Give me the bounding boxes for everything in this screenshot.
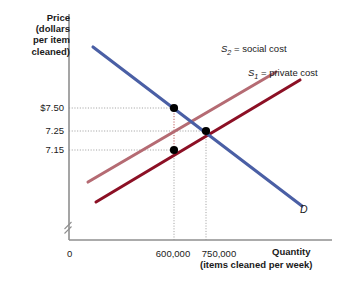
legend-label-s1: S1 = private cost xyxy=(248,67,318,81)
legend-subscript-s1: 1 xyxy=(254,72,258,81)
guide-lines xyxy=(69,108,206,240)
y-tick-label-715: 7.15 xyxy=(16,144,64,155)
legend-text-s1: = private cost xyxy=(261,67,318,78)
y-axis-title: Price (dollars per item cleaned) xyxy=(2,12,70,57)
x-tick-label-750000: 750,000 xyxy=(196,248,242,259)
legend-text-s2: = social cost xyxy=(234,43,287,54)
y-tick-label-725: 7.25 xyxy=(16,125,64,136)
y-axis-title-line-3: cleaned) xyxy=(2,46,70,57)
x-tick-label-600000: 600,000 xyxy=(150,248,196,259)
x-axis-subtitle: (items cleaned per week) xyxy=(200,259,312,270)
externality-supply-demand-chart: Price (dollars per item cleaned) $7.50 7… xyxy=(0,0,345,282)
point-social-optimum xyxy=(170,104,178,112)
y-axis-title-line-1: (dollars xyxy=(2,23,70,34)
origin-label: 0 xyxy=(67,248,72,259)
y-axis-title-line-2: per item xyxy=(2,34,70,45)
point-private-cost-at-optimum xyxy=(170,146,178,154)
point-market-equilibrium xyxy=(202,127,210,135)
y-tick-label-750: $7.50 xyxy=(16,102,64,113)
legend-subscript-s2: 2 xyxy=(227,48,231,57)
y-axis-title-line-0: Price xyxy=(2,12,70,23)
x-axis-title: Quantity xyxy=(272,246,311,257)
curve-s1-private-cost xyxy=(96,80,300,202)
legend-label-s2: S2 = social cost xyxy=(221,43,287,57)
legend-label-d: D xyxy=(300,203,308,215)
axis-break-icon xyxy=(65,222,72,234)
